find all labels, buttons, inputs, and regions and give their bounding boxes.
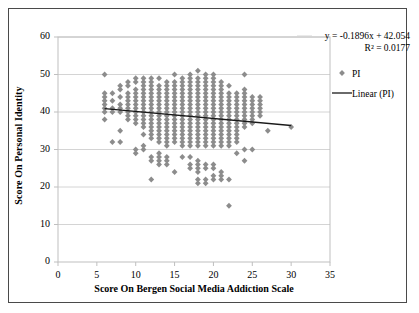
regression-equation: y = -0.1896x + 42.054 [306,30,410,42]
x-tick-label: 0 [47,269,69,280]
legend-label-linear-pi: Linear (PI) [352,89,394,99]
x-axis-title: Score On Bergen Social Media Addiction S… [58,283,330,294]
y-tick-label: 10 [28,218,50,229]
x-tick-label: 35 [319,269,341,280]
x-tick-label: 15 [164,269,186,280]
tick-marks [54,37,330,266]
y-axis-title: Score On Personal Identity [13,66,24,226]
y-tick-label: 50 [28,68,50,79]
x-tick-label: 30 [280,269,302,280]
gridlines [58,37,330,225]
x-tick-label: 20 [202,269,224,280]
legend-label-pi: PI [352,69,360,79]
x-tick-label: 5 [86,269,108,280]
data-points [102,68,294,209]
y-tick-label: 0 [28,255,50,266]
r-squared-value: R² = 0.0177 [306,42,410,54]
x-tick-label: 10 [125,269,147,280]
y-tick-label: 20 [28,180,50,191]
y-tick-label: 30 [28,143,50,154]
y-tick-label: 40 [28,105,50,116]
x-tick-label: 25 [241,269,263,280]
y-tick-label: 60 [28,30,50,41]
regression-annotation: y = -0.1896x + 42.054 R² = 0.0177 [306,30,410,54]
